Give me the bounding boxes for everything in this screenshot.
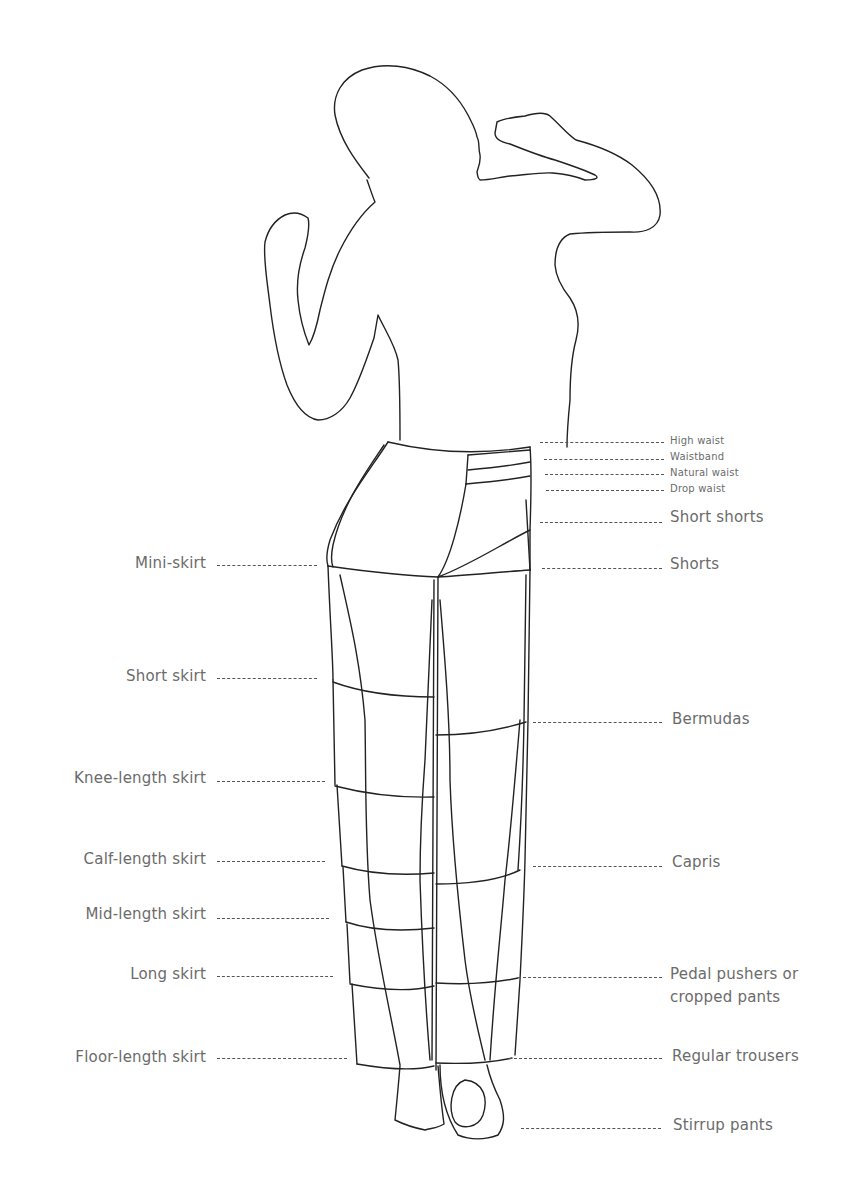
leader-short-shorts (540, 522, 662, 523)
mini-skirt-hem (328, 566, 530, 577)
label-natural-waist: Natural waist (670, 467, 739, 479)
leader-waistband (544, 459, 664, 460)
leader-pedal-pushers (518, 977, 662, 978)
short-skirt-hem (333, 682, 434, 697)
leader-bermudas (533, 722, 662, 723)
label-pedal-pushers: Pedal pushers or (670, 966, 798, 983)
left-foot (395, 1066, 444, 1130)
leader-floor-length-skirt (217, 1058, 347, 1059)
label-short-skirt: Short skirt (126, 668, 206, 685)
label-knee-length-skirt: Knee-length skirt (74, 770, 206, 787)
leader-shorts (542, 568, 662, 569)
leader-high-waist (540, 442, 664, 443)
right-foot (440, 1065, 504, 1139)
pedal-pushers-hem (436, 978, 518, 984)
capris-hem (436, 870, 520, 884)
leader-mini-skirt (217, 565, 317, 566)
label-regular-trousers: Regular trousers (672, 1048, 799, 1065)
long-skirt-hem (350, 984, 434, 990)
label-long-skirt: Long skirt (130, 966, 206, 983)
label-capris: Capris (672, 854, 721, 871)
label-waistband: Waistband (670, 451, 724, 463)
label-mid-length-skirt: Mid-length skirt (85, 906, 206, 923)
leader-short-skirt (217, 678, 317, 679)
label-bermudas: Bermudas (672, 711, 750, 728)
label-high-waist: High waist (670, 435, 724, 447)
label-drop-waist: Drop waist (670, 483, 725, 495)
mid-length-skirt-hem (346, 922, 434, 930)
leader-long-skirt (217, 976, 333, 977)
label-floor-length-skirt: Floor-length skirt (75, 1049, 206, 1066)
garment-length-figure (0, 0, 864, 1190)
leader-stirrup-pants (521, 1128, 661, 1129)
drop-waist-line (466, 476, 530, 484)
leader-regular-trousers (509, 1058, 662, 1059)
leader-mid-length-skirt (217, 918, 329, 919)
label-short-shorts: Short shorts (670, 509, 764, 526)
leader-capris (533, 866, 662, 867)
regular-trousers-hem (436, 1058, 512, 1063)
leader-knee-length-skirt (217, 781, 325, 782)
leader-natural-waist (545, 474, 664, 475)
label-stirrup-pants: Stirrup pants (673, 1117, 773, 1134)
label-mini-skirt: Mini-skirt (135, 555, 206, 572)
floor-length-skirt-hem (357, 1064, 434, 1069)
knee-length-skirt-hem (335, 786, 434, 797)
natural-waist-line (468, 462, 530, 470)
label-shorts: Shorts (670, 556, 719, 573)
stirrup-loop (451, 1080, 485, 1127)
leader-drop-waist (546, 490, 664, 491)
label-calf-length-skirt: Calf-length skirt (84, 851, 206, 868)
leader-calf-length-skirt (217, 861, 325, 862)
label-cropped-pants: cropped pants (670, 989, 780, 1006)
